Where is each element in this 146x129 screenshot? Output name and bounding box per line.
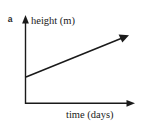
x-axis-arrowhead-icon: [127, 100, 136, 107]
trend-line: [26, 39, 121, 78]
data-series-line: [26, 35, 129, 77]
figure-container: a height (m) time (days): [0, 0, 146, 129]
x-axis-group: [26, 100, 136, 107]
y-axis-label: height (m): [31, 15, 75, 27]
x-axis-label: time (days): [66, 109, 114, 121]
y-axis-arrowhead-icon: [22, 15, 29, 24]
y-axis-group: [22, 15, 29, 104]
